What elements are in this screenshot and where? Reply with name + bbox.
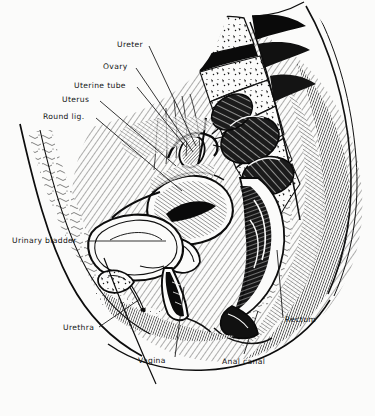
label-urethra: Urethra <box>63 324 94 332</box>
label-round-lig: Round lig. <box>43 113 84 121</box>
label-uterus: Uterus <box>62 96 89 104</box>
label-ovary: Ovary <box>103 63 128 71</box>
label-vagina: Vagina <box>138 357 166 365</box>
anatomy-illustration <box>0 0 375 416</box>
label-uterine-tube: Uterine tube <box>74 82 126 90</box>
label-rectum: Rectum <box>285 316 316 324</box>
label-ureter: Ureter <box>117 41 143 49</box>
label-anal-canal: Anal canal <box>222 358 265 366</box>
anatomical-figure: UreterOvaryUterine tubeUterusRound lig.U… <box>0 0 375 416</box>
label-urinary-bladder: Urinary bladder <box>12 237 77 245</box>
